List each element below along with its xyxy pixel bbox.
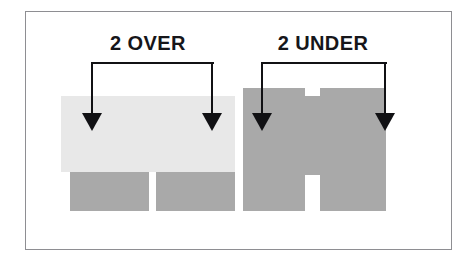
lower-block-right: [156, 172, 235, 211]
arrowhead-under-left: [252, 113, 272, 131]
label-2-over: 2 OVER: [88, 32, 208, 55]
diagram-figure: 2 OVER 2 UNDER: [0, 0, 468, 265]
bracket-stem-over-left: [91, 62, 93, 114]
bracket-stem-under-right: [384, 62, 386, 114]
joint-fill-between-tall-blocks: [305, 96, 320, 175]
bracket-stem-under-left: [261, 62, 263, 114]
bracket-stem-over-right: [211, 62, 213, 114]
arrowhead-over-left: [82, 113, 102, 131]
bracket-top-over: [91, 62, 214, 64]
diagram-artwork: 2 OVER 2 UNDER: [0, 0, 468, 265]
tall-block-right: [320, 88, 386, 211]
label-2-under: 2 UNDER: [258, 32, 388, 55]
bracket-top-under: [261, 62, 387, 64]
light-course-band: [61, 96, 235, 172]
arrowhead-over-right: [202, 113, 222, 131]
tall-block-left: [243, 88, 305, 211]
lower-block-left: [70, 172, 149, 211]
arrowhead-under-right: [375, 113, 395, 131]
